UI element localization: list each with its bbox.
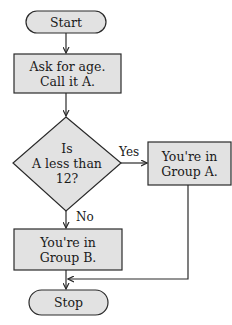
decision-label: Is A less than 12? bbox=[13, 140, 121, 186]
group-a-line-2: Group A. bbox=[161, 164, 218, 179]
no-edge-label: No bbox=[76, 210, 94, 224]
group-a-label: You're in Group A. bbox=[148, 142, 231, 185]
stop-text: Stop bbox=[54, 295, 83, 310]
stop-label: Stop bbox=[29, 290, 108, 315]
start-label: Start bbox=[26, 11, 106, 33]
ask-age-line-1: Ask for age. bbox=[30, 59, 106, 74]
group-b-line-2: Group B. bbox=[40, 250, 97, 265]
ask-age-label: Ask for age. Call it A. bbox=[14, 54, 121, 93]
decision-line-3: 12? bbox=[56, 171, 79, 186]
start-text: Start bbox=[50, 15, 82, 30]
decision-line-1: Is bbox=[61, 141, 72, 156]
ask-age-line-2: Call it A. bbox=[40, 74, 95, 89]
yes-edge-label: Yes bbox=[119, 145, 139, 159]
group-b-label: You're in Group B. bbox=[14, 229, 122, 270]
group-b-line-1: You're in bbox=[40, 235, 96, 250]
decision-line-2: A less than bbox=[32, 156, 102, 171]
group-a-line-1: You're in bbox=[162, 149, 218, 164]
